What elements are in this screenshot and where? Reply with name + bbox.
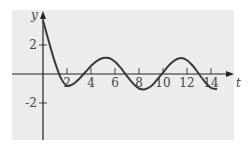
chart: 24681012142-2 y t	[0, 0, 248, 152]
x-tick-label: 6	[111, 76, 119, 90]
x-tick-label: 12	[179, 76, 194, 90]
x-tick-label: 4	[87, 76, 95, 90]
y-tick-label: -2	[25, 96, 37, 110]
y-axis-label: y	[30, 8, 38, 22]
y-tick-label: 2	[29, 38, 37, 52]
x-axis-label: t	[236, 76, 241, 90]
